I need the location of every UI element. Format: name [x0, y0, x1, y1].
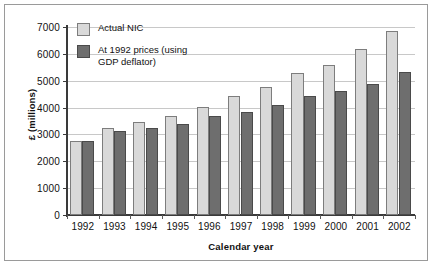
bar	[367, 84, 379, 215]
x-axis-tick-label: 2000	[320, 221, 352, 232]
bar	[197, 107, 209, 215]
bar	[209, 116, 221, 215]
x-axis-tick	[415, 215, 416, 219]
y-axis-tick-label: 4000	[37, 102, 60, 113]
bar-group: 2001	[352, 27, 384, 215]
y-axis-tick-label: 7000	[37, 22, 60, 33]
y-axis-tick-label: 6000	[37, 48, 60, 59]
legend-label-1992-prices: At 1992 prices (using GDP deflator)	[98, 44, 187, 67]
bar-group: 2000	[320, 27, 352, 215]
y-axis-tick-label: 1000	[37, 183, 60, 194]
x-axis-tick-label: 2002	[383, 221, 415, 232]
bar-group: 1998	[257, 27, 289, 215]
legend-item-1992-prices: At 1992 prices (using GDP deflator)	[77, 44, 187, 67]
bar	[335, 91, 347, 215]
x-axis-tick	[320, 215, 321, 219]
bar	[291, 73, 303, 215]
bar	[323, 65, 335, 215]
x-axis-tick-label: 1992	[67, 221, 99, 232]
bar	[177, 124, 189, 215]
bar	[399, 72, 411, 215]
x-axis-tick	[130, 215, 131, 219]
x-axis-tick	[162, 215, 163, 219]
bar	[70, 141, 82, 215]
bar	[146, 128, 158, 215]
y-axis-tick-label: 0	[54, 210, 60, 221]
y-axis-tick-label: 5000	[37, 75, 60, 86]
bar	[241, 112, 253, 215]
x-axis-tick-label: 1997	[225, 221, 257, 232]
x-axis-tick	[288, 215, 289, 219]
bar-group: 1997	[225, 27, 257, 215]
bar	[386, 31, 398, 216]
y-axis-tick-label: 3000	[37, 129, 60, 140]
legend-item-actual-nic: Actual NIC	[77, 22, 187, 36]
x-axis-tick	[257, 215, 258, 219]
bar	[355, 49, 367, 215]
x-axis-tick-label: 1994	[130, 221, 162, 232]
bar	[304, 96, 316, 216]
chart-legend: Actual NIC At 1992 prices (using GDP def…	[77, 22, 187, 67]
bar	[102, 128, 114, 215]
bar-group: 2002	[383, 27, 415, 215]
bar	[165, 116, 177, 215]
x-axis-title: Calendar year	[67, 241, 415, 252]
bar	[114, 131, 126, 215]
x-axis-tick-label: 2001	[352, 221, 384, 232]
bar-group: 1999	[288, 27, 320, 215]
x-axis-tick-label: 1995	[162, 221, 194, 232]
x-axis-tick	[225, 215, 226, 219]
bar	[272, 105, 284, 215]
x-axis-tick	[383, 215, 384, 219]
x-axis-tick-label: 1999	[288, 221, 320, 232]
x-axis-tick	[194, 215, 195, 219]
x-axis-tick-label: 1996	[194, 221, 226, 232]
y-axis-title: £ (millions)	[26, 45, 37, 185]
x-axis-tick	[99, 215, 100, 219]
legend-swatch-1992-prices	[77, 45, 90, 58]
y-axis-tick-label: 2000	[37, 156, 60, 167]
bar	[260, 87, 272, 215]
bar	[82, 141, 94, 215]
bar-group: 1996	[194, 27, 226, 215]
legend-swatch-actual-nic	[77, 23, 90, 36]
legend-label-actual-nic: Actual NIC	[98, 22, 143, 34]
x-axis-tick	[67, 215, 68, 219]
chart-frame: £ (millions) 700060005000400030002000100…	[4, 4, 428, 261]
bar	[228, 96, 240, 216]
x-axis-tick-label: 1993	[99, 221, 131, 232]
bar	[133, 122, 145, 215]
x-axis-tick-label: 1998	[257, 221, 289, 232]
x-axis-tick	[352, 215, 353, 219]
